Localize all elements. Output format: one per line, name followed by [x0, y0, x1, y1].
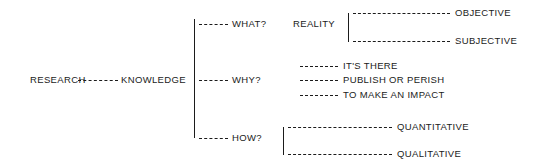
connector-bracket-why	[199, 80, 228, 81]
node-publish-or-perish: PUBLISH OR PERISH	[343, 75, 445, 85]
connector-research-knowledge	[78, 80, 118, 81]
node-qualitative: QUALITATIVE	[397, 149, 461, 159]
node-to-make-an-impact: TO MAKE AN IMPACT	[343, 90, 445, 100]
connector-bracket-how	[199, 138, 228, 139]
connector-why-publish-or-perish	[300, 80, 338, 81]
node-what: WHAT?	[232, 19, 266, 29]
research-knowledge-diagram: RESEARCH KNOWLEDGE WHAT? REALITY OBJECTI…	[0, 0, 544, 163]
node-subjective: SUBJECTIVE	[455, 36, 517, 46]
connector-why-to-make-an-impact	[300, 95, 338, 96]
node-its-there: IT'S THERE	[343, 61, 398, 71]
node-reality: REALITY	[293, 19, 335, 29]
connector-bracket-what	[199, 24, 228, 25]
node-why: WHY?	[232, 75, 261, 85]
reality-answers-bracket	[348, 13, 349, 42]
connector-how-qualitative	[288, 154, 392, 155]
connector-reality-subjective	[353, 41, 450, 42]
node-how: HOW?	[232, 133, 262, 143]
node-knowledge: KNOWLEDGE	[121, 75, 186, 85]
node-quantitative: QUANTITATIVE	[397, 122, 469, 132]
connector-why-its-there	[300, 66, 338, 67]
node-objective: OBJECTIVE	[455, 8, 511, 18]
how-answers-bracket	[283, 127, 284, 155]
connector-how-quantitative	[288, 127, 392, 128]
main-question-bracket	[194, 19, 195, 138]
connector-reality-objective	[353, 13, 450, 14]
